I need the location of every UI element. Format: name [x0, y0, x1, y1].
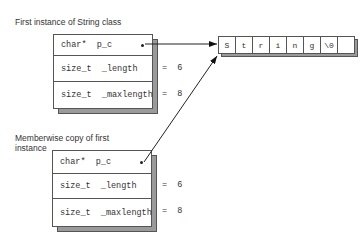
- pointer-arrows: [0, 0, 363, 237]
- pointer-arrow-copy: [144, 56, 217, 162]
